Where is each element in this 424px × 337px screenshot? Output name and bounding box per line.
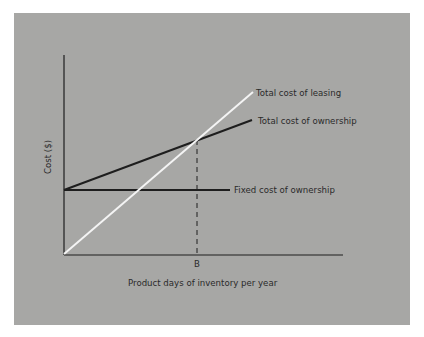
- leasing-label: Total cost of leasing: [255, 88, 341, 98]
- total-ownership-line: [64, 120, 252, 190]
- fixed-cost-label: Fixed cost of ownership: [234, 185, 335, 195]
- y-axis-label: Cost ($): [43, 140, 53, 174]
- x-tick-b: B: [194, 259, 200, 269]
- cost-chart: Total cost of leasing Total cost of owne…: [0, 0, 424, 337]
- x-axis-label: Product days of inventory per year: [128, 278, 278, 288]
- ownership-label: Total cost of ownership: [257, 116, 357, 126]
- total-leasing-line: [64, 92, 253, 254]
